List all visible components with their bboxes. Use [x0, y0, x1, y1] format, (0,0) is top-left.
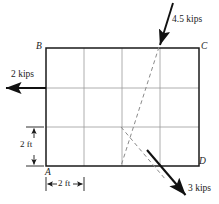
dimension-label-vertical-2ft: 2 ft — [20, 140, 32, 149]
force-label-2-kips: 2 kips — [11, 70, 34, 80]
plate-outline — [46, 48, 199, 166]
corner-label-d: D — [199, 157, 206, 167]
force-label-4p5-kips: 4.5 kips — [172, 15, 202, 25]
structural-loading-diagram: B C A D 2 kips 4.5 kips 3 kips 2 ft 2 ft — [0, 0, 219, 204]
diagram-canvas — [0, 0, 219, 204]
action-line-4p5-kips — [121, 47, 159, 166]
force-label-3-kips: 3 kips — [188, 184, 211, 194]
force-arrow-3-kips — [147, 150, 186, 195]
corner-label-a: A — [45, 168, 51, 178]
corner-label-c: C — [201, 42, 207, 52]
corner-label-b: B — [36, 42, 42, 52]
force-action-lines — [121, 47, 166, 180]
plate-grid — [46, 48, 199, 166]
action-line-3-kips — [121, 127, 166, 180]
dimension-label-horizontal-2ft: 2 ft — [58, 179, 70, 188]
